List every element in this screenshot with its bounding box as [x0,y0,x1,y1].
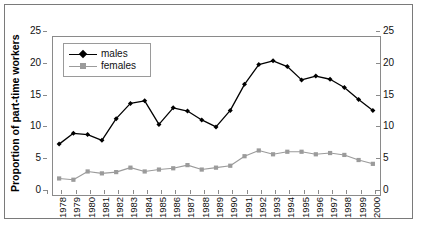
data-point-diamond [271,58,276,63]
x-tick [232,190,233,194]
y-tick-right [376,126,380,127]
x-tick [190,190,191,194]
y-tick-label-right: 0 [383,185,417,195]
y-tick-label-right: 20 [383,58,417,68]
y-tick-left [43,31,47,32]
y-tick-label-right: 15 [383,90,417,100]
legend-label-females: females [101,60,136,72]
x-tick [118,190,119,194]
x-tick [161,190,162,194]
y-tick-right [376,95,380,96]
y-axis-right-line [380,36,381,196]
square-marker-icon [69,61,97,71]
x-tick [104,190,105,194]
x-tick [304,190,305,194]
x-tick [261,190,262,194]
x-tick [90,190,91,194]
x-tick [61,190,62,194]
y-tick-label-right: 25 [383,26,417,36]
y-axis-left-line [52,36,53,196]
figure-container: Proportion of part-time workers 05101520… [0,0,421,239]
data-point-square [128,166,132,170]
y-tick-label-right: 5 [383,153,417,163]
x-tick-label: 1978 [58,197,68,218]
legend-label-males: males [101,48,128,60]
figure-caption [6,228,416,239]
data-point-diamond [228,108,233,113]
data-point-square [242,154,246,158]
data-point-diamond [356,97,361,102]
data-point-square [86,169,90,173]
x-tick-label: 1986 [172,197,182,218]
data-point-diamond [313,74,318,79]
data-point-square [143,169,147,173]
x-tick-label: 1992 [258,197,268,218]
x-tick-label: 1990 [229,197,239,218]
legend: males females [63,43,151,77]
y-tick-label-left: 5 [5,153,41,163]
y-tick-right [376,31,380,32]
x-tick [175,190,176,194]
data-point-square [357,158,361,162]
data-point-diamond [242,82,247,87]
data-point-diamond [71,131,76,136]
data-point-square [342,153,346,157]
x-axis-line [52,195,381,196]
x-tick [133,190,134,194]
x-tick-label: 1980 [87,197,97,218]
data-point-diamond [156,122,161,127]
y-tick-label-left: 25 [5,26,41,36]
data-point-diamond [299,77,304,82]
y-tick-label-right: 10 [383,121,417,131]
data-point-diamond [256,62,261,67]
x-tick-label: 1985 [158,197,168,218]
x-tick-label: 1981 [101,197,111,218]
data-point-diamond [214,124,219,129]
data-point-square [328,151,332,155]
x-tick-label: 1984 [144,197,154,218]
data-point-diamond [199,117,204,122]
x-tick [318,190,319,194]
data-point-square [299,150,303,154]
y-tick-label-left: 15 [5,90,41,100]
x-tick-label: 1979 [72,197,82,218]
legend-item-females: females [69,60,145,72]
x-tick-label: 1993 [272,197,282,218]
data-point-diamond [328,77,333,82]
data-point-diamond [85,132,90,137]
x-tick-label: 1982 [115,197,125,218]
data-point-square [57,176,61,180]
x-tick [147,190,148,194]
data-point-diamond [171,105,176,110]
x-tick-label: 1997 [329,197,339,218]
data-point-square [257,148,261,152]
data-point-diamond [370,108,375,113]
x-tick-label: 1996 [315,197,325,218]
plot-top-rule [52,36,381,37]
y-tick-label-left: 10 [5,121,41,131]
data-point-diamond [57,142,62,147]
data-point-square [171,166,175,170]
x-tick [47,190,48,194]
y-tick-label-left: 20 [5,58,41,68]
x-tick-label: 1991 [244,197,254,218]
x-tick [346,190,347,194]
x-tick-label: 1999 [358,197,368,218]
data-point-diamond [185,109,190,114]
data-point-diamond [128,101,133,106]
y-tick-right [376,190,380,191]
data-point-square [314,152,318,156]
y-tick-right [376,158,380,159]
x-tick-label: 1989 [215,197,225,218]
data-point-square [71,178,75,182]
x-tick-label: 1988 [201,197,211,218]
data-point-square [185,163,189,167]
data-point-square [114,170,118,174]
data-point-square [371,162,375,166]
legend-item-males: males [69,48,145,60]
series-females [57,148,375,181]
x-tick [375,190,376,194]
data-point-diamond [342,85,347,90]
x-tick [332,190,333,194]
x-tick-label: 1983 [129,197,139,218]
